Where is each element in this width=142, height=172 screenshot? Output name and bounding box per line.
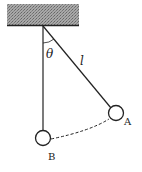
pendulum-diagram: θ l A B — [0, 0, 142, 172]
string-displaced — [43, 26, 111, 108]
bob-a — [109, 106, 124, 121]
theta-label: θ — [46, 47, 54, 61]
point-b-label: B — [48, 151, 55, 162]
angle-arc — [43, 39, 54, 43]
bob-b — [36, 131, 51, 146]
length-label: l — [80, 54, 84, 68]
ceiling-support — [7, 4, 79, 25]
point-a-label: A — [123, 116, 132, 127]
swing-path-dashed — [51, 119, 109, 139]
